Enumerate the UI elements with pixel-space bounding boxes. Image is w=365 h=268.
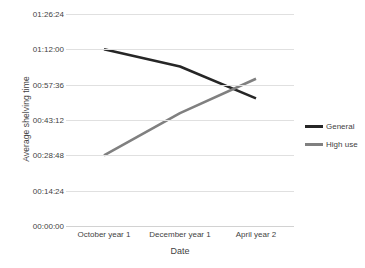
y-axis-tick-label: 00:43:12 [18, 116, 64, 125]
gridline [66, 120, 294, 121]
legend-item[interactable]: High use [305, 140, 365, 149]
y-axis-tick-label: 00:14:24 [18, 186, 64, 195]
legend-item[interactable]: General [305, 122, 365, 131]
x-axis-title: Date [66, 246, 294, 256]
y-axis-tick-label: 01:26:24 [18, 10, 64, 19]
legend-label: General [326, 122, 354, 131]
plot-area [66, 14, 294, 226]
legend-label: High use [326, 140, 358, 149]
chart-legend: GeneralHigh use [305, 122, 365, 158]
series-line [104, 49, 256, 98]
gridline [66, 85, 294, 86]
gridline [66, 191, 294, 192]
y-axis-tick-labels: 00:00:0000:14:2400:28:4800:43:1200:57:36… [18, 0, 64, 268]
x-axis-tick-labels: October year 1December year 1April year … [66, 230, 294, 244]
line-chart: Average shelving time 00:00:0000:14:2400… [0, 0, 365, 268]
gridline [66, 155, 294, 156]
legend-color-swatch [305, 125, 323, 128]
x-axis-tick-label: October year 1 [78, 230, 131, 239]
series-line [104, 79, 256, 156]
gridline [66, 14, 294, 15]
gridline [66, 49, 294, 50]
gridline [66, 226, 294, 227]
y-axis-tick-label: 01:12:00 [18, 45, 64, 54]
x-axis-tick-label: April year 2 [236, 230, 276, 239]
y-axis-tick-label: 00:57:36 [18, 80, 64, 89]
x-axis-tick-label: December year 1 [149, 230, 210, 239]
legend-color-swatch [305, 143, 323, 146]
y-axis-tick-label: 00:28:48 [18, 151, 64, 160]
y-axis-tick-label: 00:00:00 [18, 222, 64, 231]
